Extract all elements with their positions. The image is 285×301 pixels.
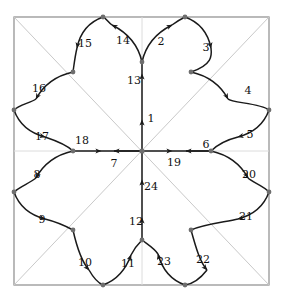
arc-label-2: 2 (158, 36, 165, 47)
vertex-tip-top-right (183, 15, 188, 20)
vertex-cusp-se (189, 228, 194, 233)
arc-label-6: 6 (203, 139, 210, 150)
arc-label-16: 16 (32, 83, 46, 94)
vertex-left-cusp (71, 149, 76, 154)
vertex-center (139, 148, 144, 153)
arc-label-21: 21 (239, 211, 253, 222)
arc-8 (36, 151, 73, 178)
vertex-tip-top-left (101, 15, 106, 20)
vertex-tip-left-top (12, 108, 17, 113)
arc-label-24: 24 (144, 181, 158, 192)
arc-label-7: 7 (111, 158, 118, 169)
arc-16-tail (14, 99, 36, 110)
arc-label-15: 15 (78, 38, 92, 49)
vertex-cusp-nw (71, 70, 76, 75)
arc-label-11: 11 (121, 258, 135, 269)
arc-label-9: 9 (39, 214, 46, 225)
flower-curve-figure (0, 0, 285, 301)
arc-label-22: 22 (196, 254, 210, 265)
vertex-tip-right-bot (267, 190, 272, 195)
arc-label-8: 8 (34, 169, 41, 180)
vertex-tip-left-bot (12, 190, 17, 195)
vertex-bottom-cusp (140, 238, 145, 243)
arc-label-4: 4 (245, 85, 252, 96)
arc-15-tail (73, 48, 77, 72)
vertex-top-cusp (140, 60, 145, 65)
arc-label-19: 19 (167, 157, 181, 168)
arc-4 (191, 72, 228, 99)
vertex-tip-bot-right (183, 283, 188, 288)
arc-label-18: 18 (75, 135, 89, 146)
vertex-cusp-sw (71, 228, 76, 233)
vertex-tip-right-top (267, 108, 272, 113)
arc-10-tail (89, 270, 103, 285)
arc-9-tail (45, 219, 73, 230)
arc-label-1: 1 (148, 113, 155, 124)
vertex-cusp-ne (189, 70, 194, 75)
arc-5 (238, 110, 269, 137)
diagram-canvas: 123456789101112131415161718192021222324 (0, 0, 285, 301)
arc-22-tail (185, 270, 207, 285)
arc-label-17: 17 (35, 131, 49, 142)
arc-label-3: 3 (203, 42, 210, 53)
arc-label-12: 12 (129, 216, 143, 227)
arc-label-5: 5 (247, 129, 254, 140)
arc-label-13: 13 (127, 75, 141, 86)
arc-5-tail (211, 137, 238, 151)
arc-label-23: 23 (157, 256, 171, 267)
arc-11-tail (131, 240, 142, 255)
arc-23-tail (142, 240, 158, 254)
arc-17-tail (45, 137, 73, 151)
arc-label-14: 14 (116, 35, 130, 46)
arc-label-20: 20 (242, 169, 256, 180)
vertex-tip-bot-left (101, 283, 106, 288)
arc-4-tail (228, 99, 269, 110)
arc-label-10: 10 (78, 257, 92, 268)
